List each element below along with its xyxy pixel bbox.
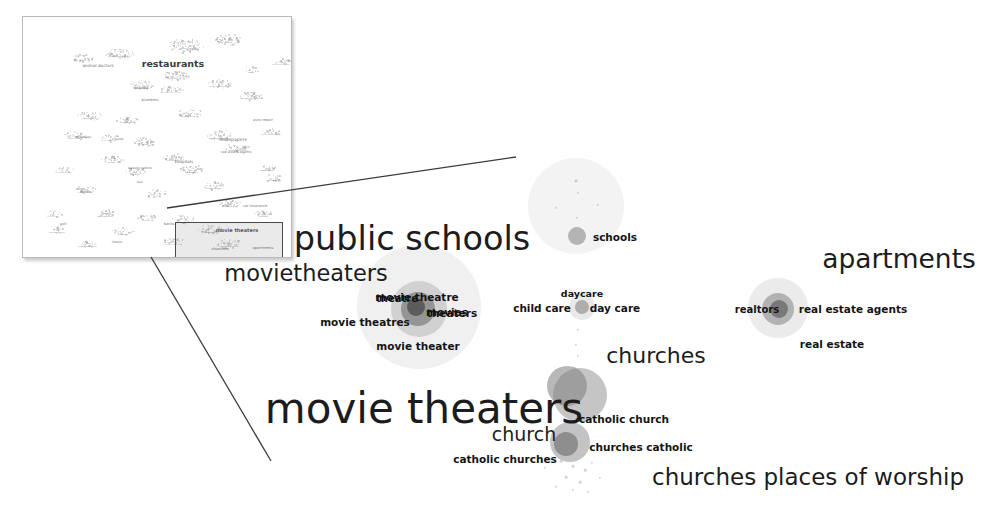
overview-label: banks (164, 222, 175, 226)
search-term-label[interactable]: theaters (427, 307, 477, 319)
search-term-label[interactable]: movie theatre (375, 291, 458, 303)
search-term-label[interactable]: movie theater (376, 340, 459, 352)
cluster-headline-label[interactable]: movietheaters (224, 260, 387, 286)
overview-label: pizza (115, 137, 124, 141)
overview-label: attorneys (75, 135, 91, 139)
map-speck (575, 344, 577, 346)
overview-label: animal doctors (82, 63, 113, 68)
overview-thumbnail[interactable]: restaurantsanimal doctorsnewspapershospi… (22, 16, 292, 258)
zoomable-map-canvas[interactable]: restaurantsanimal doctorsnewspapershospi… (0, 0, 1003, 505)
map-speck (591, 462, 593, 464)
overview-label: plumbers (142, 98, 159, 102)
search-term-label[interactable]: churches catholic (589, 441, 693, 453)
schools-core (568, 227, 586, 245)
search-term-label[interactable]: catholic churches (453, 453, 557, 465)
map-speck (599, 477, 601, 479)
map-speck (579, 481, 582, 484)
search-term-label[interactable]: realtors (735, 304, 779, 315)
map-speck (577, 329, 579, 331)
overview-label: real estate agents (221, 150, 252, 154)
overview-label: auto repair (253, 118, 273, 122)
daycare-core (575, 300, 589, 314)
search-term-label[interactable]: daycare (561, 288, 603, 299)
map-speck (575, 180, 578, 183)
map-speck (565, 476, 568, 479)
map-speck (572, 465, 575, 468)
map-speck (573, 367, 576, 370)
overview-label: restaurants (142, 58, 205, 69)
viewport-selection-box[interactable] (175, 222, 283, 258)
cluster-headline-label[interactable]: churches (606, 343, 706, 368)
map-speck (587, 491, 589, 493)
overview-label: newspapers (219, 137, 247, 142)
cluster-headline-label[interactable]: church (492, 423, 556, 445)
overview-label: hospitals (175, 159, 193, 164)
search-term-label[interactable]: day care (590, 302, 640, 314)
cluster-headline-label[interactable]: public schools (294, 219, 530, 258)
overview-label: florists (80, 190, 91, 194)
map-speck (555, 486, 557, 488)
cluster-headline-label[interactable]: apartments (822, 243, 976, 274)
cluster-headline-label[interactable]: churches places of worship (652, 464, 964, 490)
search-term-label[interactable]: real estate agents (799, 303, 907, 315)
map-speck (584, 469, 587, 472)
church-lower-core (554, 432, 578, 456)
search-term-label[interactable]: child care (513, 302, 571, 314)
overview-label: beauty salons (128, 166, 152, 170)
connector-bottom (151, 257, 271, 461)
search-term-label[interactable]: movie theatres (320, 316, 410, 328)
overview-label: bus (288, 59, 292, 63)
map-speck (572, 489, 574, 491)
overview-label: hotels (112, 240, 122, 244)
map-speck (577, 355, 579, 357)
overview-label: dentists (133, 85, 148, 90)
overview-label: taxi (137, 180, 143, 184)
map-speck (544, 467, 546, 469)
search-term-label[interactable]: real estate (800, 338, 864, 350)
overview-label: golf (60, 222, 66, 226)
search-term-label[interactable]: schools (593, 231, 637, 243)
map-speck (560, 460, 563, 463)
search-term-label[interactable]: catholic church (579, 413, 669, 425)
overview-label: car insurance (243, 204, 267, 208)
